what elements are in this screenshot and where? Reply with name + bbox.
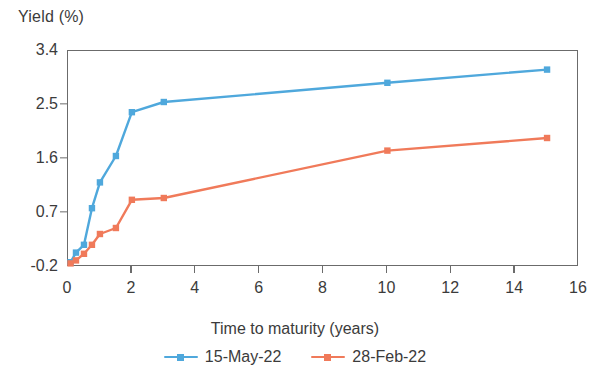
x-axis-tick-mark <box>450 266 451 273</box>
x-axis-tick-label: 4 <box>190 279 199 297</box>
x-axis-tick-label: 14 <box>505 279 523 297</box>
chart-legend: 15-May-2228-Feb-22 <box>0 348 590 366</box>
x-axis-tick-mark <box>513 266 514 273</box>
x-axis-title: Time to maturity (years) <box>0 320 590 338</box>
yield-curve-chart: Yield (%) -0.20.71.62.53.4 Time to matur… <box>0 0 590 374</box>
data-point-marker <box>81 251 87 257</box>
y-axis-tick-mark <box>60 157 67 158</box>
plot-area <box>67 50 578 266</box>
x-axis-tick-label: 8 <box>318 279 327 297</box>
y-axis-tick-label: 3.4 <box>2 41 58 59</box>
legend-entry-2[interactable]: 28-Feb-22 <box>311 348 426 366</box>
x-axis-tick-mark <box>322 266 323 273</box>
legend-label: 15-May-22 <box>205 348 281 366</box>
series-line <box>71 70 548 263</box>
y-axis-tick-label: 1.6 <box>2 149 58 167</box>
x-axis-tick-mark <box>194 266 195 273</box>
data-point-marker <box>384 147 390 153</box>
data-point-marker <box>97 231 103 237</box>
data-point-marker <box>129 197 135 203</box>
data-point-marker <box>129 109 135 115</box>
data-point-marker <box>73 249 79 255</box>
x-axis-tick-label: 16 <box>569 279 587 297</box>
series-2 <box>67 135 550 267</box>
data-point-marker <box>97 179 103 185</box>
legend-swatch-icon <box>311 351 345 363</box>
x-axis-tick-label: 12 <box>441 279 459 297</box>
x-axis-tick-label: 6 <box>254 279 263 297</box>
series-line <box>71 138 548 263</box>
y-axis-tick-label: -0.2 <box>2 257 58 275</box>
data-point-marker <box>384 80 390 86</box>
data-point-marker <box>544 66 550 72</box>
y-axis-tick-mark <box>60 211 67 212</box>
series-1 <box>67 66 550 265</box>
y-axis-tick-label: 0.7 <box>2 203 58 221</box>
data-point-marker <box>161 99 167 105</box>
x-axis-tick-label: 0 <box>63 279 72 297</box>
x-axis-tick-mark <box>130 266 131 273</box>
x-axis-tick-mark <box>386 266 387 273</box>
y-axis-tick-mark <box>60 103 67 104</box>
y-axis-tick-label: 2.5 <box>2 95 58 113</box>
x-axis-tick-mark <box>258 266 259 273</box>
data-point-marker <box>89 242 95 248</box>
plot-svg <box>68 51 579 267</box>
data-point-marker <box>544 135 550 141</box>
legend-entry-1[interactable]: 15-May-22 <box>164 348 281 366</box>
data-point-marker <box>89 205 95 211</box>
data-point-marker <box>73 257 79 263</box>
legend-label: 28-Feb-22 <box>352 348 426 366</box>
data-point-marker <box>161 195 167 201</box>
data-point-marker <box>113 225 119 231</box>
x-axis-tick-label: 10 <box>377 279 395 297</box>
data-point-marker <box>81 242 87 248</box>
y-axis-tick-labels: -0.20.71.62.53.4 <box>0 0 58 374</box>
x-axis-tick-label: 2 <box>126 279 135 297</box>
legend-swatch-icon <box>164 351 198 363</box>
data-point-marker <box>113 153 119 159</box>
